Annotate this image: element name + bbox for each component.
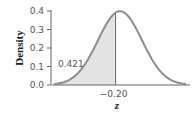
y-tick-label: 0.2	[30, 43, 44, 53]
y-tick-label: 0.3	[30, 25, 44, 35]
area-annotation: 0.421	[58, 59, 84, 69]
y-tick-label: 0.1	[30, 62, 44, 72]
y-axis-label: Density	[13, 30, 25, 66]
y-tick-label: 0.4	[30, 6, 45, 16]
y-axis-ticks: 0.00.10.20.30.4	[30, 6, 51, 90]
x-axis-label: z	[114, 99, 120, 111]
normal-density-chart: 0.00.10.20.30.4 −0.20 z Density 0.421	[0, 0, 196, 114]
x-tick-label: −0.20	[100, 89, 128, 99]
density-curve	[54, 11, 186, 84]
y-tick-label: 0.0	[30, 80, 45, 90]
